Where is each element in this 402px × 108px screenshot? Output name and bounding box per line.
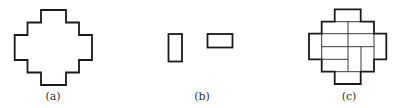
panel-a-shape [15, 10, 92, 85]
panel-c-tiled-shape [309, 9, 386, 84]
panel-b-dominoes [169, 34, 233, 62]
caption-c: (c) [329, 89, 369, 105]
caption-b: (b) [182, 89, 222, 105]
caption-a: (a) [33, 89, 73, 105]
region-outline [15, 10, 92, 85]
horizontal-domino [208, 34, 233, 48]
vertical-domino [169, 34, 183, 62]
